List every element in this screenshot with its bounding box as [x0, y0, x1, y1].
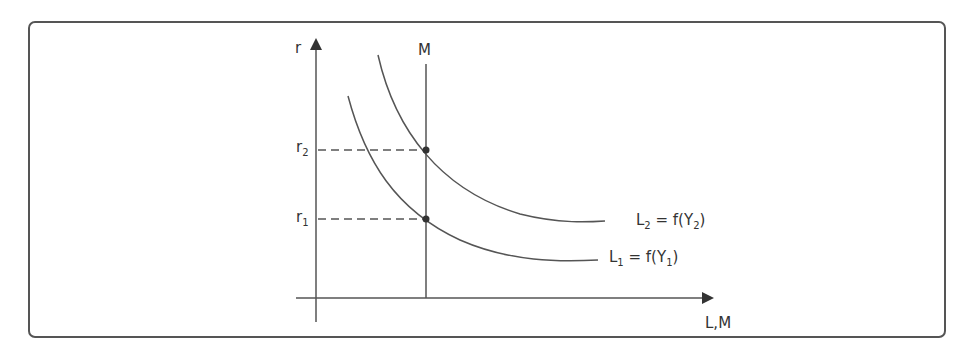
x-axis-arrow-icon — [702, 292, 714, 304]
curve-L1-label: L1 = f(Y1) — [609, 248, 678, 268]
curve-L2 — [378, 55, 605, 222]
r2-label: r2 — [296, 138, 309, 158]
liquidity-preference-diagram: r L,M M r2 r1 L2 = f(Y2) L1 = f(Y1) — [0, 0, 973, 360]
y-axis-label: r — [295, 39, 302, 57]
x-axis-label: L,M — [705, 314, 731, 332]
equilibrium-point-2 — [423, 147, 430, 154]
r1-label: r1 — [296, 208, 309, 228]
curve-L1 — [348, 96, 598, 261]
y-axis-arrow-icon — [310, 38, 322, 50]
curve-L2-label: L2 = f(Y2) — [636, 211, 705, 231]
money-supply-label: M — [418, 41, 431, 59]
equilibrium-point-1 — [423, 216, 430, 223]
